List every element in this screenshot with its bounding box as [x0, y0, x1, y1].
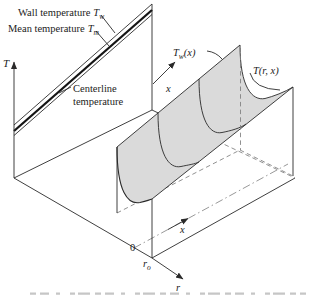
trx-profile-label: T(r, x)	[253, 65, 279, 77]
floor-front-right-edge	[152, 178, 295, 258]
centerline-temperature-label: Centerlinetemperature	[73, 83, 123, 107]
tw-profile-leader	[207, 51, 222, 59]
x-axis-label-upper: x	[165, 83, 171, 94]
wall-temperature-label: Wall temperatureTw	[18, 7, 104, 21]
figure-canvas: Wall temperatureTw Mean temperatureTm Ce…	[0, 0, 312, 295]
tw-profile-label: Tw(x)	[173, 47, 196, 61]
origin-label: 0	[130, 242, 135, 253]
floor-x-axis-arrow	[168, 219, 188, 230]
footprint-far-hidden-line	[240, 150, 293, 176]
upper-x-axis-arrow	[153, 62, 175, 84]
temperature-surface	[117, 45, 293, 258]
tube-radius-label: ro	[143, 258, 151, 272]
r-axis-label: r	[176, 282, 181, 293]
mean-temperature-label: Mean temperatureTm	[8, 23, 100, 37]
t-axis-label: T	[3, 57, 10, 69]
x-axis-label-floor: x	[179, 224, 185, 235]
temperature-profile-diagram: Wall temperatureTw Mean temperatureTm Ce…	[0, 0, 312, 295]
r-axis-arrow	[152, 258, 183, 279]
